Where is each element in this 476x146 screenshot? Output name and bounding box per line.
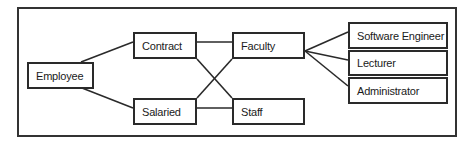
edge-employee-salaried	[82, 88, 133, 108]
node-label: Faculty	[241, 40, 275, 52]
edge-employee-contract	[81, 42, 133, 62]
node-faculty: Faculty	[232, 32, 305, 59]
node-administrator: Administrator	[348, 77, 448, 104]
node-lecturer: Lecturer	[348, 50, 448, 76]
node-label: Contract	[142, 40, 182, 52]
node-staff: Staff	[232, 98, 305, 125]
edge-faculty-software-engineer	[305, 32, 348, 51]
node-label: Lecturer	[357, 57, 396, 69]
node-label: Staff	[241, 106, 262, 118]
node-label: Administrator	[357, 85, 419, 97]
node-salaried: Salaried	[133, 98, 197, 125]
node-label: Salaried	[142, 106, 181, 118]
node-software-engineer: Software Engineer	[348, 22, 448, 49]
node-label: Employee	[36, 70, 83, 82]
node-employee: Employee	[27, 62, 94, 89]
node-contract: Contract	[133, 32, 197, 59]
node-label: Software Engineer	[357, 30, 444, 42]
